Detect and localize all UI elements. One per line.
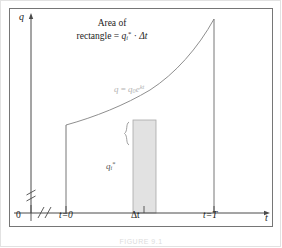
origin-label: 0 [16, 210, 21, 221]
y-axis-label: q [19, 11, 24, 23]
delta-t-rectangle [133, 120, 156, 213]
curve-eq-equals: = [119, 84, 129, 94]
q-star-superscript: * [112, 160, 115, 167]
q-star-i-label: qi* [106, 160, 116, 171]
y-axis-arrowhead [29, 13, 33, 19]
tick-label-t-zero: t=0 [59, 210, 73, 221]
curve-equation-label: q = q0ekt [114, 83, 144, 94]
x-axis-label: t [265, 212, 268, 224]
annotation-delta-t: Δt [139, 31, 147, 41]
curve-eq-exponent: kt [140, 83, 145, 90]
figure-page: Area of rectangle = qi* · Δt q = q0ekt q… [0, 0, 282, 248]
tick-label-delta-t: Δt [131, 210, 140, 221]
annotation-line-2: rectangle = qi* · Δt [58, 30, 166, 42]
annotation-area-of-rectangle: Area of rectangle = qi* · Δt [58, 18, 166, 41]
figure-caption: FIGURE 9.1 [0, 238, 282, 245]
annotation-line-1: Area of [58, 18, 166, 29]
tick-label-t-capital-T: t=T [203, 210, 217, 221]
annotation-dot-operator: · [131, 31, 139, 41]
annotation-line-2-prefix: rectangle = [77, 31, 122, 41]
q-star-brace [125, 122, 130, 145]
